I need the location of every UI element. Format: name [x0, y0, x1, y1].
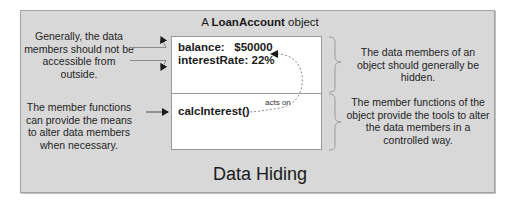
dashed-curved-arrow-icon	[246, 50, 302, 112]
right-curly-brace-icon	[329, 37, 341, 150]
arrow-deflected-icon	[130, 37, 166, 70]
diagram-connectors	[0, 0, 511, 204]
